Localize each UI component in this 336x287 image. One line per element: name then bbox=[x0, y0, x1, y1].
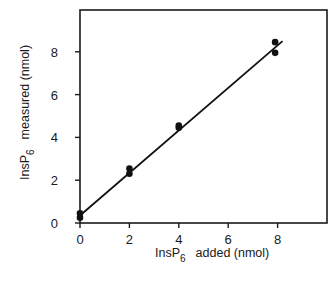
x-tick-label: 8 bbox=[274, 232, 281, 247]
y-tick-label: 6 bbox=[51, 88, 58, 103]
y-tick-label: 0 bbox=[51, 216, 58, 231]
plot-frame bbox=[80, 10, 327, 223]
x-tick-label: 6 bbox=[225, 232, 232, 247]
y-tick-label: 2 bbox=[51, 173, 58, 188]
y-tick-label: 8 bbox=[51, 45, 58, 60]
y-axis-label: InsP6measured (nmol) bbox=[18, 45, 36, 180]
data-point bbox=[77, 210, 84, 217]
data-point bbox=[272, 39, 279, 46]
data-point bbox=[272, 50, 279, 57]
x-axis-label: InsP6added (nmol) bbox=[155, 246, 269, 264]
data-point bbox=[126, 165, 133, 172]
x-axis-ticks: 02468 bbox=[76, 223, 281, 247]
y-axis-ticks: 02468 bbox=[51, 45, 80, 231]
x-tick-label: 4 bbox=[175, 232, 182, 247]
y-tick-label: 4 bbox=[51, 130, 58, 145]
x-tick-label: 0 bbox=[76, 232, 83, 247]
data-points bbox=[77, 39, 279, 221]
scatter-chart: 02468 02468 InsP6added (nmol) InsP6measu… bbox=[0, 0, 336, 287]
x-tick-label: 2 bbox=[126, 232, 133, 247]
data-point bbox=[176, 122, 183, 129]
plot-border bbox=[80, 10, 327, 223]
